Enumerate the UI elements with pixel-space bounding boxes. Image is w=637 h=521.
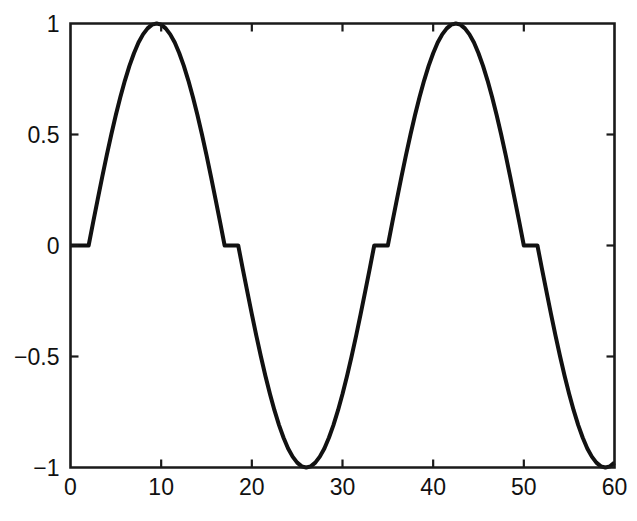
y-tick-label: 1	[47, 11, 60, 37]
y-tick-label: 0	[47, 233, 60, 259]
x-tick-label: 30	[330, 474, 356, 500]
y-tick-label: 0.5	[28, 122, 60, 148]
x-tick-label: 0	[64, 474, 77, 500]
y-tick-label: −0.5	[14, 344, 59, 370]
x-tick-label: 40	[420, 474, 446, 500]
y-tick-label: −1	[33, 455, 59, 481]
x-tick-label: 50	[511, 474, 537, 500]
chart-figure: 0102030405060 −1−0.500.51	[0, 0, 637, 521]
chart-canvas: 0102030405060 −1−0.500.51	[0, 0, 637, 521]
x-tick-label: 20	[239, 474, 265, 500]
x-tick-label: 10	[148, 474, 174, 500]
x-tick-label: 60	[602, 474, 628, 500]
